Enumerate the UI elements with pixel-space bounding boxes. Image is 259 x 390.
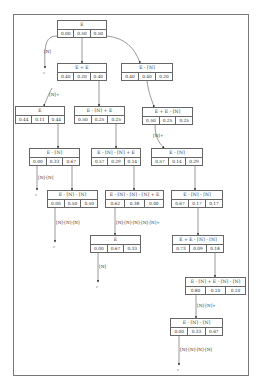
terminal-epsilon: ε — [96, 284, 98, 289]
node-value: 0.44 — [16, 116, 32, 124]
node-value: 0.57 — [152, 158, 169, 166]
node-label: E + E - [N] - [N] — [173, 236, 223, 245]
node-value: 0.50 — [75, 116, 92, 124]
tree-node[interactable]: E 0.000.670.33 — [90, 235, 141, 253]
tree-node[interactable]: E - [N] - [N] 0.000.500.50 — [47, 190, 98, 208]
node-value: 0.00 — [58, 30, 74, 38]
tree-node[interactable]: E - [N] - [N] - [N] + E 0.620.380.00 — [105, 190, 164, 208]
terminal-epsilon: ε — [35, 192, 37, 197]
node-value: 0.50 — [65, 200, 82, 208]
terminal-epsilon: ε — [177, 367, 179, 372]
edge-label: [N]-[N]+ — [197, 303, 216, 308]
node-label: E - [N] + E - [N] - [N] — [186, 278, 245, 287]
edge-label: [N]+ — [49, 92, 59, 97]
node-value: 0.33 — [188, 328, 205, 336]
node-label: E - [N] - [N] — [172, 191, 222, 200]
node-label: E — [91, 236, 140, 245]
tree-node[interactable]: E + E - [N] 0.500.250.25 — [142, 107, 193, 125]
tree-node[interactable]: E 0.440.110.44 — [15, 106, 65, 124]
node-value: 0.00 — [48, 200, 65, 208]
edge-label: [N]+ — [153, 133, 163, 138]
node-value: 0.67 — [63, 158, 79, 166]
tree-node[interactable]: E - [N] - [N] 0.000.330.67 — [170, 318, 223, 336]
node-value: 0.62 — [106, 200, 125, 208]
node-label: E - [N] - [N] — [171, 319, 222, 328]
node-value: 0.00 — [91, 245, 108, 253]
node-value: 0.10 — [206, 287, 226, 295]
edge-label: [N]-[N]-[N] — [56, 220, 80, 225]
node-value: 0.50 — [74, 30, 90, 38]
node-value: 0.00 — [30, 158, 47, 166]
node-label: E - [N] - [N] + E — [92, 149, 140, 158]
terminal-epsilon: ε — [53, 244, 55, 249]
node-value: 0.25 — [176, 117, 192, 125]
node-value: 0.17 — [206, 200, 222, 208]
node-label: E - [N] + E — [75, 107, 124, 116]
node-value: 0.25 — [160, 117, 177, 125]
node-value: 0.14 — [125, 158, 140, 166]
tree-node[interactable]: E - [N] 0.000.330.67 — [29, 148, 80, 166]
node-value: 0.14 — [169, 158, 186, 166]
tree-node[interactable]: E - [N] 0.400.400.20 — [121, 63, 173, 81]
node-label: E - [N] - [N] — [48, 191, 97, 200]
tree-node[interactable]: E + E - [N] - [N] 0.730.090.18 — [172, 235, 224, 253]
terminal-epsilon: ε — [43, 70, 45, 75]
tree-node[interactable]: E - [N] + E - [N] - [N] 0.800.100.10 — [185, 277, 246, 295]
node-value: 0.57 — [92, 158, 108, 166]
node-value: 0.40 — [139, 73, 156, 81]
node-value: 0.00 — [171, 328, 188, 336]
tree-node[interactable]: E 0.000.500.50 — [57, 20, 107, 38]
node-label: E + E — [58, 64, 106, 73]
tree-node[interactable]: E + E 0.400.200.40 — [57, 63, 107, 81]
node-value: 0.50 — [81, 200, 97, 208]
tree-node[interactable]: E - [N] + E 0.500.250.25 — [74, 106, 125, 124]
node-label: E - [N] — [122, 64, 172, 73]
node-label: E — [16, 107, 64, 116]
node-label: E - [N] — [152, 149, 202, 158]
tree-node[interactable]: E - [N] - [N] 0.670.170.17 — [171, 190, 223, 208]
edge-label: [N]-[N]-[N]-[N] — [180, 347, 212, 352]
node-value: 0.40 — [58, 73, 74, 81]
edge-label: [N] — [44, 49, 51, 54]
node-label: E + E - [N] — [143, 108, 192, 117]
node-value: 0.38 — [125, 200, 144, 208]
node-value: 0.11 — [32, 116, 48, 124]
node-value: 0.44 — [49, 116, 64, 124]
node-label: E - [N] - [N] - [N] + E — [106, 191, 163, 200]
tree-node[interactable]: E - [N] - [N] + E 0.570.290.14 — [91, 148, 141, 166]
node-value: 0.80 — [186, 287, 206, 295]
node-value: 0.50 — [143, 117, 160, 125]
node-value: 0.67 — [206, 328, 222, 336]
node-value: 0.29 — [108, 158, 124, 166]
node-value: 0.73 — [173, 245, 190, 253]
node-value: 0.25 — [92, 116, 109, 124]
node-value: 0.29 — [186, 158, 202, 166]
node-value: 0.18 — [207, 245, 223, 253]
node-value: 0.25 — [108, 116, 124, 124]
node-value: 0.17 — [189, 200, 206, 208]
node-label: E — [58, 21, 106, 30]
node-value: 0.67 — [108, 245, 125, 253]
tree-node[interactable]: E - [N] 0.570.140.29 — [151, 148, 203, 166]
node-value: 0.10 — [226, 287, 245, 295]
node-value: 0.20 — [74, 73, 90, 81]
node-value: 0.40 — [91, 73, 106, 81]
node-value: 0.50 — [91, 30, 106, 38]
node-value: 0.00 — [145, 200, 163, 208]
edge-label: [N]-[N]-[N]-[N]-[N]+ — [116, 220, 160, 225]
node-value: 0.09 — [190, 245, 207, 253]
node-value: 0.67 — [172, 200, 189, 208]
node-label: E - [N] — [30, 149, 79, 158]
node-value: 0.33 — [47, 158, 64, 166]
node-value: 0.40 — [122, 73, 139, 81]
edge-label: [N]-[N] — [38, 175, 53, 180]
edge-label: [N] — [99, 264, 106, 269]
node-value: 0.20 — [156, 73, 172, 81]
node-value: 0.33 — [124, 245, 140, 253]
